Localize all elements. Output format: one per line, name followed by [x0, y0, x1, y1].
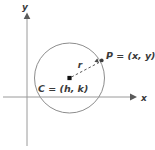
- y-axis-arrowhead: [24, 13, 31, 20]
- radius-label: r: [78, 60, 83, 70]
- center-point-marker: [67, 76, 71, 80]
- point-p-marker: [100, 59, 104, 63]
- radius-dashed-line: [72, 63, 100, 78]
- x-axis-label: x: [140, 93, 148, 103]
- point-p-label: P = (x, y): [106, 50, 155, 61]
- circle-diagram-canvas: y x r P = (x, y) C = (h, k): [0, 0, 155, 150]
- circle-diagram-figure: y x r P = (x, y) C = (h, k): [0, 0, 155, 150]
- y-axis-label: y: [22, 2, 29, 12]
- center-point-label: C = (h, k): [38, 83, 88, 94]
- x-axis-arrowhead: [130, 94, 137, 101]
